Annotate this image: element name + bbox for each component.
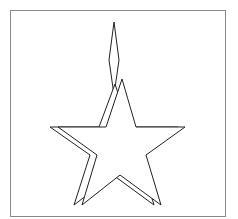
diagram-canvas	[0, 0, 238, 219]
diamond	[109, 22, 119, 95]
